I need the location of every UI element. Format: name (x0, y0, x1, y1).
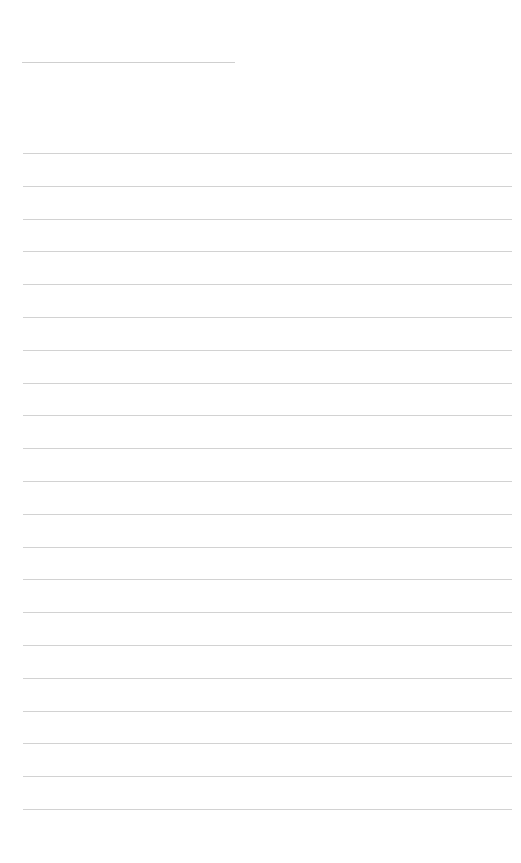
ruled-line (23, 219, 512, 220)
title-line (22, 62, 235, 63)
ruled-line (23, 579, 512, 580)
ruled-line (23, 317, 512, 318)
ruled-line (23, 383, 512, 384)
ruled-line (23, 743, 512, 744)
ruled-line (23, 678, 512, 679)
ruled-line (23, 612, 512, 613)
ruled-line (23, 645, 512, 646)
ruled-line (23, 514, 512, 515)
ruled-line (23, 153, 512, 154)
ruled-line (23, 251, 512, 252)
ruled-page (0, 0, 521, 863)
ruled-line (23, 711, 512, 712)
ruled-line (23, 350, 512, 351)
ruled-line (23, 415, 512, 416)
ruled-line (23, 481, 512, 482)
ruled-line (23, 776, 512, 777)
ruled-line (23, 547, 512, 548)
ruled-line (23, 809, 512, 810)
ruled-line (23, 284, 512, 285)
ruled-line (23, 448, 512, 449)
ruled-line (23, 186, 512, 187)
